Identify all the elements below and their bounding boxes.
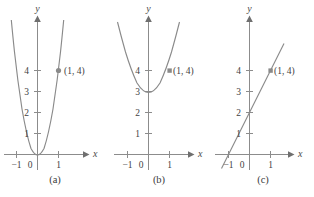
y-axis-label-b: y <box>145 3 151 14</box>
x-tick-label-b-0: 0 <box>139 160 144 170</box>
point-label-c: (1, 4) <box>274 66 295 77</box>
x-tick-label-c--1: −1 <box>223 160 233 170</box>
x-tick-label-c-0: 0 <box>240 160 245 170</box>
y-tick-label-c-2: 2 <box>236 108 241 118</box>
y-tick-label-a-2: 2 <box>24 108 29 118</box>
x-tick-label-c-1: 1 <box>268 160 273 170</box>
three-graph-figure: −1 0 1 1 2 3 4 x y (1, 4) (a) <box>0 0 314 197</box>
y-tick-label-a-4: 4 <box>24 66 29 76</box>
y-tick-label-b-2: 2 <box>135 108 140 118</box>
caption-b: (b) <box>104 174 214 185</box>
graph-panel-a: −1 0 1 1 2 3 4 x y (1, 4) (a) <box>0 0 110 197</box>
x-tick-label-b--1: −1 <box>122 160 132 170</box>
graph-panel-c: −1 0 1 1 2 3 4 x y (1, 4) (c) <box>208 0 314 197</box>
x-axis-label-b: x <box>197 148 203 159</box>
graph-a-svg: −1 0 1 1 2 3 4 x y (1, 4) <box>0 0 110 175</box>
point-label-b: (1, 4) <box>173 66 194 77</box>
x-axis-label-a: x <box>92 148 98 159</box>
y-axis-label-a: y <box>34 3 40 14</box>
x-tick-label-a-0: 0 <box>28 160 33 170</box>
y-tick-label-a-1: 1 <box>24 129 29 139</box>
x-axis-label-c: x <box>297 148 303 159</box>
y-tick-label-b-3: 3 <box>135 87 140 97</box>
curve-c <box>222 44 285 169</box>
y-tick-label-b-4: 4 <box>135 66 140 76</box>
data-point-marker-a <box>56 68 61 73</box>
y-tick-label-a-3: 3 <box>24 87 29 97</box>
x-tick-label-a-1: 1 <box>56 160 61 170</box>
y-tick-label-b-1: 1 <box>135 129 140 139</box>
data-point-marker-c <box>268 68 272 72</box>
y-tick-label-c-1: 1 <box>236 129 241 139</box>
data-point-marker-b <box>167 68 171 72</box>
graph-panel-b: −1 0 1 1 2 3 4 x y (1, 4) (b) <box>104 0 214 197</box>
y-axis-c <box>246 16 253 171</box>
caption-c: (c) <box>208 174 314 185</box>
x-axis-b <box>114 151 195 158</box>
y-tick-label-c-3: 3 <box>236 87 241 97</box>
x-tick-label-a--1: −1 <box>11 160 21 170</box>
y-axis-a <box>34 16 41 171</box>
point-label-a: (1, 4) <box>64 66 85 77</box>
y-axis-label-c: y <box>246 3 252 14</box>
y-tick-label-c-4: 4 <box>236 66 241 76</box>
caption-a: (a) <box>0 174 110 185</box>
graph-c-svg: −1 0 1 1 2 3 4 x y (1, 4) <box>208 0 314 175</box>
graph-b-svg: −1 0 1 1 2 3 4 x y (1, 4) <box>104 0 214 175</box>
x-tick-label-b-1: 1 <box>167 160 172 170</box>
